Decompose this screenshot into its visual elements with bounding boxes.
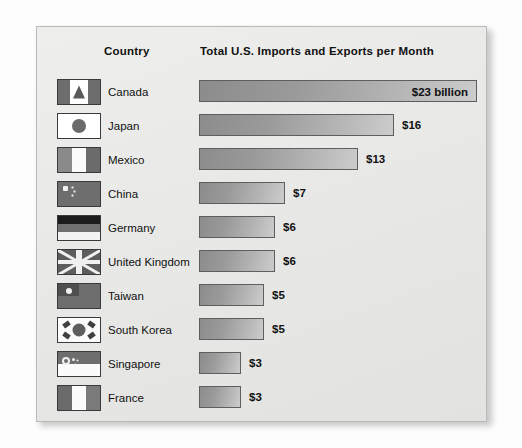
country-label: United Kingdom (108, 256, 190, 268)
flag-taiwan-icon (57, 283, 101, 309)
value-bar (199, 250, 275, 272)
country-label: China (108, 188, 138, 200)
chart-row: France$3 (37, 383, 486, 417)
chart-row: China$7 (37, 179, 486, 213)
chart-row: United Kingdom$6 (37, 247, 486, 281)
country-label: Singapore (108, 358, 160, 370)
country-label: South Korea (108, 324, 172, 336)
chart-row: Canada$23 billion (37, 77, 486, 111)
value-label: $5 (272, 323, 285, 335)
chart-row: Taiwan$5 (37, 281, 486, 315)
chart-row: Mexico$13 (37, 145, 486, 179)
chart-row: Japan$16 (37, 111, 486, 145)
value-bar (199, 318, 264, 340)
flag-canada-icon (57, 79, 101, 105)
chart-page: Country Total U.S. Imports and Exports p… (0, 0, 522, 448)
value-label: $7 (293, 187, 306, 199)
flag-mexico-icon (57, 147, 101, 173)
value-bar (199, 114, 394, 136)
chart-row: Germany$6 (37, 213, 486, 247)
value-label: $6 (283, 255, 296, 267)
value-label: $3 (249, 391, 262, 403)
country-label: France (108, 392, 144, 404)
value-bar: $23 billion (199, 80, 477, 102)
value-bar (199, 284, 264, 306)
value-label: $6 (283, 221, 296, 233)
value-bar (199, 182, 285, 204)
column-header-country: Country (104, 45, 149, 57)
country-label: Japan (108, 120, 139, 132)
value-bar (199, 216, 275, 238)
value-label: $23 billion (412, 86, 468, 98)
value-label: $5 (272, 289, 285, 301)
value-bar (199, 386, 241, 408)
chart-row: Singapore$3 (37, 349, 486, 383)
value-label: $13 (366, 153, 385, 165)
country-label: Mexico (108, 154, 144, 166)
chart-panel: Country Total U.S. Imports and Exports p… (36, 26, 487, 422)
flag-china-icon (57, 181, 101, 207)
value-label: $16 (402, 119, 421, 131)
chart-row: South Korea$5 (37, 315, 486, 349)
column-header-metric: Total U.S. Imports and Exports per Month (200, 45, 434, 57)
flag-singapore-icon (57, 351, 101, 377)
flag-japan-icon (57, 113, 101, 139)
country-label: Canada (108, 86, 148, 98)
flag-france-icon (57, 385, 101, 411)
flag-germany-icon (57, 215, 101, 241)
flag-united-kingdom-icon (57, 249, 101, 275)
flag-south-korea-icon (57, 317, 101, 343)
value-bar (199, 352, 241, 374)
value-bar (199, 148, 358, 170)
country-label: Taiwan (108, 290, 144, 302)
country-label: Germany (108, 222, 155, 234)
value-label: $3 (249, 357, 262, 369)
